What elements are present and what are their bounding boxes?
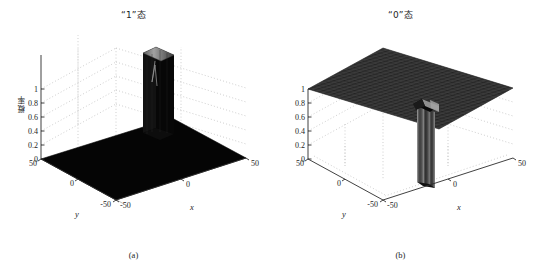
figure-canvas: “1”态 概率 xyxy=(0,0,534,266)
y-axis-name-b: y xyxy=(341,209,346,219)
z-tick-labels-a: 0 0.2 0.4 0.6 0.8 1 xyxy=(28,85,38,164)
svg-text:0.2: 0.2 xyxy=(28,141,38,150)
axes-a: 0 0.2 0.4 0.6 0.8 1 50 0 -50 xyxy=(0,20,267,242)
subfigure-caption-a: (a) xyxy=(0,250,267,260)
y-tick-labels-b: 50 0 -50 xyxy=(296,159,378,209)
subfigure-caption-b: (b) xyxy=(267,250,534,260)
svg-text:50: 50 xyxy=(296,159,304,168)
svg-text:-50: -50 xyxy=(100,200,111,209)
well-wall-b xyxy=(417,106,435,188)
svg-text:0: 0 xyxy=(186,180,190,189)
x-axis-name-a: x xyxy=(189,202,194,212)
axes-b: 0 0.2 0.4 0.6 0.8 1 50 0 -50 xyxy=(267,20,534,242)
svg-text:0.2: 0.2 xyxy=(295,141,305,150)
svg-text:0: 0 xyxy=(70,179,74,188)
surface-plateau-mesh-overlay-b xyxy=(308,48,513,129)
svg-text:-50: -50 xyxy=(387,201,398,210)
svg-text:50: 50 xyxy=(251,159,259,168)
svg-text:0.8: 0.8 xyxy=(28,99,38,108)
svg-text:0: 0 xyxy=(453,180,457,189)
svg-text:-50: -50 xyxy=(367,200,378,209)
svg-text:50: 50 xyxy=(29,159,37,168)
svg-text:0.4: 0.4 xyxy=(28,127,38,136)
svg-text:-50: -50 xyxy=(120,201,131,210)
svg-text:0.6: 0.6 xyxy=(295,113,305,122)
x-axis-name-b: x xyxy=(456,202,461,212)
svg-text:0.8: 0.8 xyxy=(295,99,305,108)
peak-column-left-face-a xyxy=(143,47,156,133)
svg-text:0.6: 0.6 xyxy=(28,113,38,122)
z-tick-labels-b: 0 0.2 0.4 0.6 0.8 1 xyxy=(295,85,305,164)
plot-panel-a: “1”态 概率 xyxy=(0,0,267,266)
svg-text:0.4: 0.4 xyxy=(295,127,305,136)
plot-panel-b: “0”态 概率 xyxy=(267,0,534,266)
y-axis-name-a: y xyxy=(74,209,79,219)
svg-text:0: 0 xyxy=(337,179,341,188)
svg-text:1: 1 xyxy=(34,85,38,94)
svg-text:1: 1 xyxy=(301,85,305,94)
svg-text:50: 50 xyxy=(518,159,526,168)
